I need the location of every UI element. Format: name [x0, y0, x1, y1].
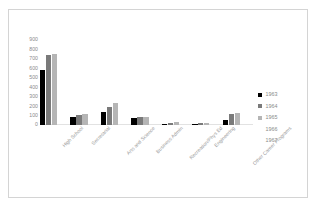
- legend-label: 1967: [266, 138, 278, 143]
- bar-1964: [137, 117, 142, 125]
- bar-1963: [131, 118, 136, 125]
- bar-group: [70, 40, 100, 125]
- x-axis: High SchoolSecretarialArts and ScienceBu…: [40, 125, 253, 195]
- x-axis-label: Arts and Science: [125, 125, 156, 156]
- legend-label: 1963: [266, 92, 278, 97]
- bar-group: [162, 40, 192, 125]
- bar-1963: [40, 70, 45, 125]
- y-axis-tick: 300: [29, 94, 38, 99]
- bar-1963: [101, 112, 106, 125]
- bar-1965: [52, 54, 57, 125]
- bar-group: [131, 40, 161, 125]
- legend-item-1964[interactable]: 1964: [258, 101, 306, 113]
- y-axis-tick: 600: [29, 66, 38, 71]
- y-axis-tick: 0: [35, 122, 38, 127]
- bar-group: [101, 40, 131, 125]
- bar-groups: [40, 40, 253, 125]
- y-axis-tick: 100: [29, 113, 38, 118]
- bar-group: [192, 40, 222, 125]
- bar-1964: [76, 115, 81, 125]
- bar-1964: [107, 107, 112, 125]
- bar-1965: [113, 103, 118, 125]
- legend-label: 1964: [266, 104, 278, 109]
- plot-area: [40, 40, 253, 125]
- y-axis-tick: 400: [29, 85, 38, 90]
- bar-group: [223, 40, 253, 125]
- legend-item-1965[interactable]: 1965: [258, 112, 306, 124]
- chart-frame: 9008007006005004003002001000 High School…: [8, 9, 308, 198]
- legend-swatch-icon: [258, 104, 262, 108]
- legend-label: 1965: [266, 115, 278, 120]
- legend-swatch-icon: [258, 116, 262, 120]
- bar-1964: [46, 55, 51, 125]
- legend-item-1967[interactable]: 1967: [258, 135, 306, 147]
- bar-1964: [229, 114, 234, 125]
- x-axis-label: Secretarial: [90, 125, 111, 146]
- y-axis-tick: 700: [29, 56, 38, 61]
- legend-swatch-icon: [258, 93, 262, 97]
- y-axis: 9008007006005004003002001000: [12, 37, 38, 128]
- y-axis-tick: 800: [29, 47, 38, 52]
- legend-item-1963[interactable]: 1963: [258, 89, 306, 101]
- x-axis-label: High School: [61, 125, 84, 148]
- legend-label: 1966: [266, 127, 278, 132]
- bar-1965: [235, 113, 240, 125]
- x-axis-label: Business Admin: [155, 125, 184, 154]
- chart-legend: 19631964196519661967: [258, 89, 306, 147]
- legend-item-1966[interactable]: 1966: [258, 124, 306, 136]
- bar-1965: [143, 117, 148, 126]
- y-axis-tick: 500: [29, 75, 38, 80]
- legend-swatch-icon: [258, 139, 262, 143]
- y-axis-tick: 200: [29, 104, 38, 109]
- bar-group: [40, 40, 70, 125]
- legend-swatch-icon: [258, 127, 262, 131]
- bar-1965: [82, 114, 87, 125]
- bar-1963: [70, 117, 75, 125]
- y-axis-tick: 900: [29, 37, 38, 42]
